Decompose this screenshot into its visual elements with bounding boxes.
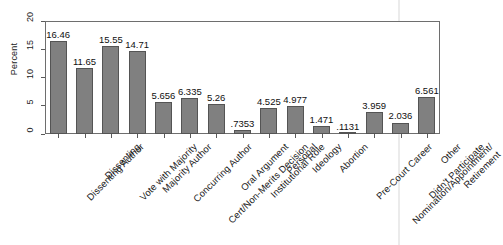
- bar-value-label: 2.036: [379, 110, 423, 121]
- bar: [50, 41, 67, 134]
- y-tick-label: 0: [25, 122, 35, 138]
- x-label-line: Dissenting: [102, 141, 142, 181]
- x-tick-mark: [401, 134, 402, 138]
- bar: [234, 130, 251, 134]
- x-axis-label: Dissenting: [102, 141, 142, 181]
- bar-value-label: .1131: [326, 121, 370, 132]
- bar-value-label: 14.71: [115, 39, 159, 50]
- x-tick-mark: [348, 134, 349, 138]
- x-tick-mark: [427, 134, 428, 138]
- bar-value-label: 5.26: [194, 92, 238, 103]
- bar-value-label: 6.561: [405, 85, 449, 96]
- y-axis-title: Percent: [9, 0, 19, 119]
- x-tick-mark: [137, 134, 138, 138]
- bar-value-label: 11.65: [63, 56, 107, 67]
- bar-value-label: 16.46: [36, 29, 80, 40]
- x-tick-mark: [58, 134, 59, 138]
- x-tick-mark: [111, 134, 112, 138]
- bar: [155, 102, 172, 134]
- bar-value-label: 3.959: [352, 100, 396, 111]
- bar-value-label: .7353: [221, 118, 265, 129]
- x-tick-mark: [190, 134, 191, 138]
- bar-value-label: 4.977: [273, 94, 317, 105]
- y-tick-label: 15: [25, 37, 35, 53]
- x-tick-mark: [295, 134, 296, 138]
- bar: [392, 123, 409, 135]
- x-tick-mark: [216, 134, 217, 138]
- y-tick-label: 10: [25, 66, 35, 82]
- x-tick-mark: [243, 134, 244, 138]
- x-tick-mark: [164, 134, 165, 138]
- bar: [76, 68, 93, 134]
- y-tick-label: 5: [25, 94, 35, 110]
- x-tick-mark: [269, 134, 270, 138]
- x-tick-mark: [374, 134, 375, 138]
- bar: [339, 132, 356, 134]
- x-tick-mark: [85, 134, 86, 138]
- x-tick-mark: [322, 134, 323, 138]
- y-tick-label: 20: [25, 9, 35, 25]
- bar: [181, 98, 198, 134]
